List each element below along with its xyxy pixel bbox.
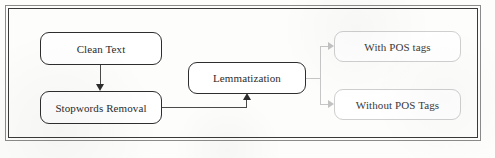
node-stopwords-removal-label: Stopwords Removal (55, 102, 146, 114)
connector-output-bus (320, 46, 321, 105)
node-without-pos-tags: Without POS Tags (334, 89, 461, 120)
node-lemmatization-label: Lemmatization (213, 72, 281, 84)
node-clean-text-label: Clean Text (77, 43, 126, 55)
node-clean-text: Clean Text (40, 32, 162, 65)
node-without-pos-tags-label: Without POS Tags (356, 99, 439, 111)
arrowhead-down-icon (96, 84, 104, 91)
connector-stopwords-to-lemmatization-horizontal (162, 107, 247, 108)
arrowhead-up-icon (243, 93, 251, 100)
node-with-pos-tags-label: With POS tags (364, 41, 430, 53)
flow-diagram-figure: Clean Text Stopwords Removal Lemmatizati… (0, 0, 495, 158)
connector-stopwords-to-lemmatization-vertical (246, 100, 247, 108)
node-with-pos-tags: With POS tags (334, 31, 461, 62)
node-lemmatization: Lemmatization (188, 62, 306, 94)
node-stopwords-removal: Stopwords Removal (40, 91, 162, 124)
connector-lemmatization-output (306, 78, 320, 79)
connector-clean-text-to-stopwords (100, 65, 101, 86)
